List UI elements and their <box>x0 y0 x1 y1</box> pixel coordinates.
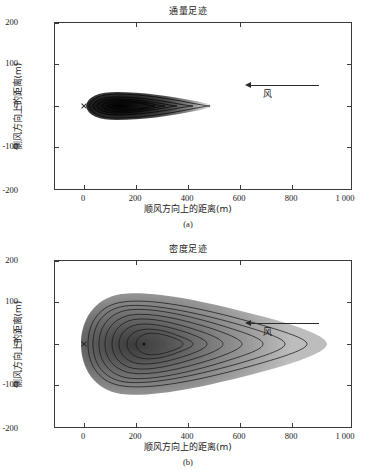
panel-b-peak-marker <box>143 343 146 346</box>
panel-b-xtick-800 <box>292 423 293 427</box>
panel-b-wind-label: 风 <box>257 325 277 338</box>
panel-a-ytick-right-100 <box>347 64 351 65</box>
panel-b: 密度足迹 <box>0 238 376 476</box>
panel-a-wind-label: 风 <box>257 87 277 100</box>
panel-a: 通量足迹 <box>0 0 376 238</box>
panel-a-plot-frame: 风 <box>54 22 352 190</box>
panel-a-ytick-m100 <box>55 147 59 148</box>
panel-b-plot-frame: 风 <box>54 260 352 428</box>
panel-b-yaxis-label: 侧风方向上的距离(m) <box>11 280 24 410</box>
panel-a-caption: (a) <box>0 219 376 229</box>
panel-a-shading <box>75 83 225 129</box>
arrow-left-icon <box>245 320 251 326</box>
panel-b-ytick-right-100 <box>347 302 351 303</box>
panel-a-ytick-right-0 <box>347 106 351 107</box>
panel-b-ytick-m100 <box>55 385 59 386</box>
panel-b-ytick-200 <box>55 261 59 262</box>
panel-a-xtick-0 <box>84 185 85 189</box>
panel-b-xaxis-label: 顺风方向上的距离(m) <box>0 440 376 453</box>
panel-a-ytick-0 <box>55 106 59 107</box>
panel-b-xtick-top-600 <box>240 261 241 265</box>
panel-b-ylabel-200: 200 <box>0 255 18 265</box>
panel-a-xaxis-label: 顺风方向上的距离(m) <box>0 202 376 215</box>
panel-a-xtick-600 <box>240 185 241 189</box>
panel-b-ylabel-m200: -200 <box>0 423 18 433</box>
panel-a-ytick-right-m100 <box>347 147 351 148</box>
panel-b-xtick-600 <box>240 423 241 427</box>
panel-a-ytick-200 <box>55 23 59 24</box>
panel-b-xtick-200 <box>136 423 137 427</box>
panel-a-ylabel-m200: -200 <box>0 185 18 195</box>
panel-a-xtick-top-200 <box>136 23 137 27</box>
panel-a-xtick-top-600 <box>240 23 241 27</box>
panel-a-xtick-200 <box>136 185 137 189</box>
panel-a-xtick-400 <box>188 185 189 189</box>
panel-a-yaxis-label: 侧风方向上的距离(m) <box>11 42 24 172</box>
panel-b-origin-marker <box>81 341 88 348</box>
panel-a-ytick-100 <box>55 64 59 65</box>
arrow-left-icon <box>245 82 251 88</box>
panel-b-xtick-top-200 <box>136 261 137 265</box>
panel-b-contour-plot <box>55 261 351 427</box>
panel-b-ytick-right-0 <box>347 344 351 345</box>
panel-a-xtick-800 <box>292 185 293 189</box>
panel-a-origin-marker <box>81 103 88 110</box>
footprint-figure: 通量足迹 <box>0 0 376 476</box>
panel-b-shading <box>70 281 340 409</box>
panel-b-xtick-0 <box>84 423 85 427</box>
panel-b-xtick-400 <box>188 423 189 427</box>
panel-b-ytick-100 <box>55 302 59 303</box>
panel-a-contour-plot <box>55 23 351 189</box>
panel-b-ytick-right-m100 <box>347 385 351 386</box>
panel-a-title: 通量足迹 <box>0 4 376 17</box>
panel-b-caption: (b) <box>0 457 376 467</box>
panel-b-ytick-0 <box>55 344 59 345</box>
panel-b-title: 密度足迹 <box>0 242 376 255</box>
panel-a-ylabel-200: 200 <box>0 17 18 27</box>
